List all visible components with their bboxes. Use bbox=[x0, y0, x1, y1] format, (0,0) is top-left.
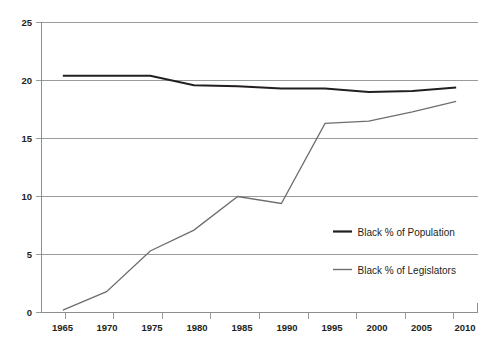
x-label-2005: 2005 bbox=[411, 322, 433, 333]
chart-canvas: 25 20 15 10 5 0 1965 1970 1975 1980 1985… bbox=[0, 0, 495, 347]
x-tickmarks bbox=[65, 312, 453, 319]
x-label-2010: 2010 bbox=[454, 322, 475, 333]
x-axis-labels: 1965 1970 1975 1980 1985 1990 1995 2000 … bbox=[52, 322, 476, 333]
y-label-15: 15 bbox=[21, 133, 32, 144]
x-label-1965: 1965 bbox=[52, 322, 74, 333]
y-label-25: 25 bbox=[21, 17, 32, 28]
x-label-1970: 1970 bbox=[96, 322, 117, 333]
line-chart: 25 20 15 10 5 0 1965 1970 1975 1980 1985… bbox=[0, 0, 495, 347]
gridlines bbox=[41, 23, 478, 255]
y-tickmarks bbox=[36, 23, 41, 313]
x-label-1980: 1980 bbox=[186, 322, 207, 333]
series-line-black-pct-of-population bbox=[63, 76, 456, 92]
y-label-20: 20 bbox=[21, 75, 32, 86]
y-label-5: 5 bbox=[27, 249, 33, 260]
legend-label-population: Black % of Population bbox=[358, 227, 455, 238]
x-label-1975: 1975 bbox=[141, 322, 163, 333]
x-label-1990: 1990 bbox=[276, 322, 297, 333]
x-label-1985: 1985 bbox=[231, 322, 253, 333]
x-label-2000: 2000 bbox=[366, 322, 387, 333]
series-line-black-pct-of-legislators bbox=[63, 101, 456, 310]
y-label-0: 0 bbox=[27, 307, 32, 318]
y-label-10: 10 bbox=[21, 191, 32, 202]
x-label-1995: 1995 bbox=[321, 322, 343, 333]
legend-label-legislators: Black % of Legislators bbox=[358, 265, 456, 276]
y-axis-labels: 25 20 15 10 5 0 bbox=[21, 17, 32, 318]
chart-legend: Black % of Population Black % of Legisla… bbox=[333, 227, 456, 276]
